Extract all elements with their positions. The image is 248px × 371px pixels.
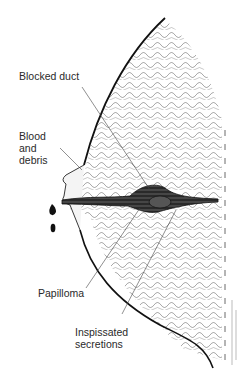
label-blood-and-debris: Blood and debris — [19, 130, 48, 166]
label-papilloma: Papilloma — [38, 287, 84, 299]
nipple — [63, 165, 84, 230]
label-blocked-duct: Blocked duct — [19, 70, 79, 82]
breast-anatomy-figure: Blocked duct Blood and debris Papilloma … — [0, 0, 248, 371]
papilloma-mass — [149, 196, 171, 208]
discharge-drop-2 — [51, 224, 56, 232]
breast-illustration — [0, 0, 248, 371]
label-inspissated-secretions: Inspissated secretions — [75, 326, 128, 350]
discharge-drop-1 — [49, 204, 56, 215]
